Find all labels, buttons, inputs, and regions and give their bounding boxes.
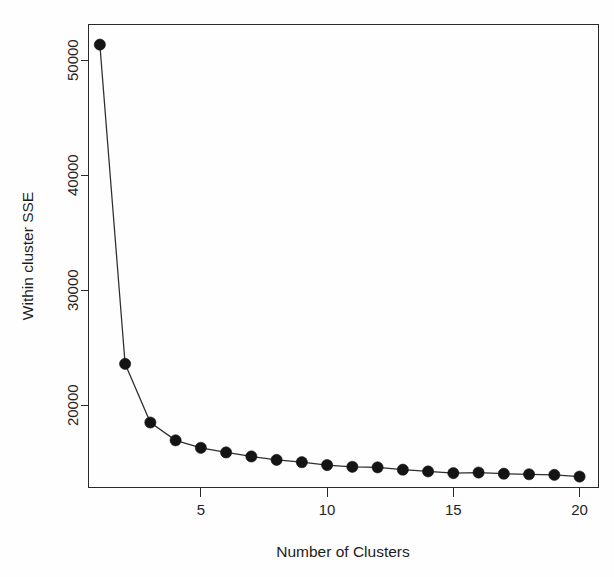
y-tick-label: 50000: [64, 39, 81, 81]
sse-series-points: [94, 39, 585, 482]
data-point: [523, 469, 534, 480]
data-point: [246, 451, 257, 462]
data-point: [296, 457, 307, 468]
data-point: [170, 435, 181, 446]
data-point: [473, 467, 484, 478]
y-tick-label: 20000: [64, 384, 81, 426]
data-point: [195, 442, 206, 453]
y-axis-title: Within cluster SSE: [19, 192, 36, 320]
data-point: [372, 462, 383, 473]
y-tick-label: 30000: [64, 269, 81, 311]
x-tick-label: 15: [445, 501, 462, 518]
data-point: [347, 461, 358, 472]
data-point: [549, 469, 560, 480]
x-axis-title: Number of Clusters: [276, 543, 410, 560]
chart-figure: 20000300004000050000 5101520 Within clus…: [0, 0, 614, 577]
x-tick-label: 5: [197, 501, 205, 518]
data-point: [397, 464, 408, 475]
x-tick-label: 20: [571, 501, 588, 518]
x-axis-ticks: 5101520: [197, 488, 588, 518]
data-point: [498, 468, 509, 479]
x-tick-label: 10: [319, 501, 336, 518]
y-tick-label: 40000: [64, 154, 81, 196]
data-point: [422, 466, 433, 477]
data-point: [94, 39, 105, 50]
data-point: [221, 447, 232, 458]
data-point: [120, 358, 131, 369]
data-point: [574, 471, 585, 482]
sse-series-line: [100, 45, 580, 477]
elbow-plot-svg: 20000300004000050000 5101520 Within clus…: [0, 0, 614, 577]
data-point: [271, 454, 282, 465]
plot-frame: [89, 25, 599, 488]
y-axis-ticks: 20000300004000050000: [64, 39, 88, 426]
data-point: [145, 417, 156, 428]
data-point: [448, 468, 459, 479]
data-point: [321, 459, 332, 470]
